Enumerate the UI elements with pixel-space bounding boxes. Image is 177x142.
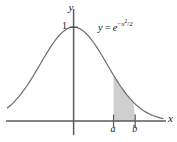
x-tick-label-a: a (111, 124, 116, 134)
y-axis-label: y (69, 2, 74, 13)
equation-label: y = e−x2/2 (98, 19, 133, 33)
equation-exponent: −x2/2 (117, 20, 132, 28)
gaussian-curve-figure: y x 1 a b y = e−x2/2 (0, 0, 177, 142)
x-axis-label: x (168, 113, 173, 124)
y-tick-label-one: 1 (62, 21, 67, 31)
shade-overlay (0, 0, 177, 142)
equation-exp-denom: 2 (129, 20, 133, 28)
x-tick-label-b: b (132, 124, 137, 134)
